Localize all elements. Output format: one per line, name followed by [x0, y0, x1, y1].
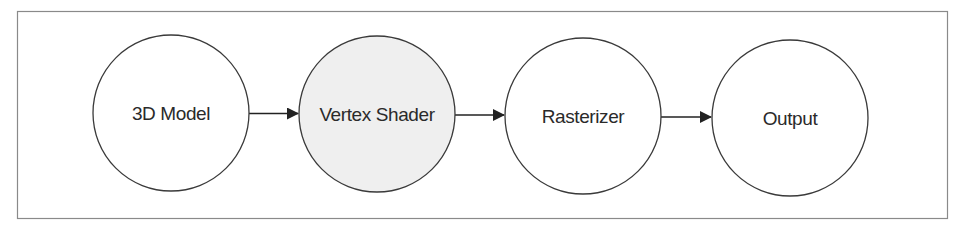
node-label: 3D Model — [132, 103, 210, 124]
node-model: 3D Model — [93, 35, 249, 191]
node-label: Output — [763, 108, 819, 129]
node-output: Output — [712, 40, 868, 196]
node-label: Rasterizer — [542, 106, 626, 127]
node-raster: Rasterizer — [505, 38, 661, 194]
node-vertex: Vertex Shader — [299, 36, 455, 192]
pipeline-diagram: 3D ModelVertex ShaderRasterizerOutput — [0, 0, 959, 230]
node-label: Vertex Shader — [319, 104, 435, 125]
